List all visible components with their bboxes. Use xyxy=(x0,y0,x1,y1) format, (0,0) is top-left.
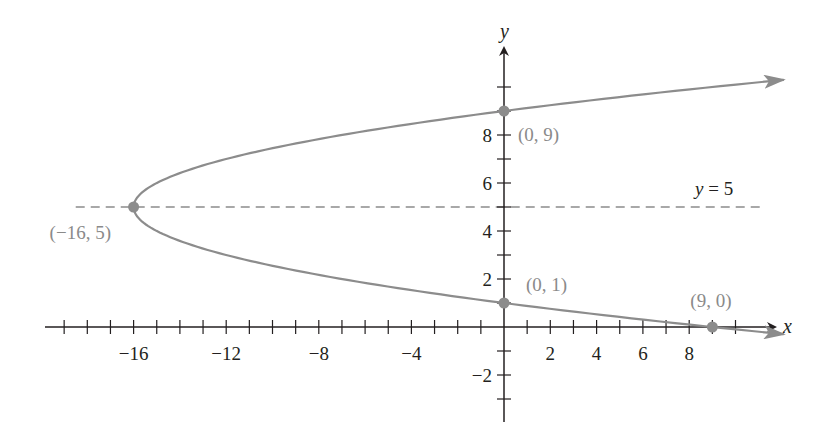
x-tick-label: −8 xyxy=(309,343,329,364)
y-tick-label: 8 xyxy=(483,125,493,146)
point-marker xyxy=(128,202,139,213)
point: (−16, 5) xyxy=(50,202,140,245)
x-tick-label: 6 xyxy=(638,343,648,364)
y-tick-label: 2 xyxy=(483,269,493,290)
labeled-points: (−16, 5)(0, 9)(0, 1)(9, 0) xyxy=(50,106,732,333)
x-axis: −16−12−8−42468 x xyxy=(45,315,792,364)
y-tick-label: 6 xyxy=(483,173,493,194)
x-tick-label: 2 xyxy=(546,343,556,364)
x-tick-label: 4 xyxy=(592,343,602,364)
y-axis: −22468 y xyxy=(472,20,511,422)
parabola-lower-branch xyxy=(134,207,784,334)
point-marker xyxy=(499,298,510,309)
parabola-chart: y = 5 −16−12−8−42468 x −22468 y (−16, 5)… xyxy=(0,0,835,443)
y-tick-label: 4 xyxy=(483,221,493,242)
x-tick-label: −4 xyxy=(401,343,422,364)
x-tick-label: −16 xyxy=(119,343,149,364)
point-marker xyxy=(707,322,718,333)
point-label: (0, 1) xyxy=(526,274,567,296)
point-label: (−16, 5) xyxy=(50,222,111,244)
x-tick-label: 8 xyxy=(684,343,694,364)
axis-of-symmetry-label: y = 5 xyxy=(693,178,733,199)
parabola-upper-branch xyxy=(134,80,784,207)
x-tick-label: −12 xyxy=(211,343,241,364)
y-tick-label: −2 xyxy=(472,365,492,386)
point-marker xyxy=(499,106,510,117)
point: (0, 9) xyxy=(499,106,560,147)
y-axis-label: y xyxy=(498,20,509,43)
y-tick-labels: −22468 xyxy=(472,125,493,386)
point-label: (9, 0) xyxy=(690,290,731,312)
x-tick-labels: −16−12−8−42468 xyxy=(119,343,694,364)
point-label: (0, 9) xyxy=(518,124,559,146)
